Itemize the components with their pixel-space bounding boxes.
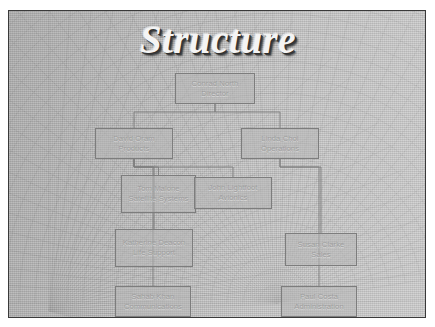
- org-node-role: Products: [119, 144, 150, 154]
- org-node-role: Administration: [294, 302, 344, 312]
- org-node-director[interactable]: Conrad NorthDirector: [175, 73, 255, 104]
- org-node-name: John Lightfoot: [208, 183, 257, 193]
- org-node-life-support[interactable]: Katherine DeaconLife Support: [115, 229, 193, 267]
- org-node-role: Operations: [261, 144, 299, 154]
- org-node-name: Linda Choi: [261, 134, 298, 144]
- org-node-name: Conrad North: [192, 79, 239, 89]
- org-node-name: Susan Clarke: [298, 240, 345, 250]
- org-node-role: Life Support: [133, 248, 175, 258]
- org-chart-connectors: [9, 11, 426, 318]
- org-node-operations[interactable]: Linda ChoiOperations: [241, 128, 319, 159]
- org-node-avionics[interactable]: John LightfootAvionics: [194, 177, 272, 209]
- org-node-administration[interactable]: Paul CostaAdministration: [281, 286, 357, 317]
- org-node-role: Director: [201, 89, 228, 99]
- slide-canvas: Structure Conrad NorthDirectorDavid Oram…: [8, 10, 426, 318]
- org-node-name: Sahab Khan: [132, 292, 175, 302]
- org-chart: Conrad NorthDirectorDavid OramProductsLi…: [9, 11, 425, 317]
- org-node-role: Satellite Systems: [129, 194, 189, 204]
- org-node-name: Paul Costa: [300, 292, 338, 302]
- org-node-products[interactable]: David OramProducts: [95, 128, 173, 159]
- org-node-satellite[interactable]: Tom MaloneSatellite Systems: [121, 175, 196, 213]
- org-node-sales[interactable]: Susan ClarkeSales: [285, 233, 357, 266]
- org-node-name: Katherine Deacon: [123, 238, 185, 248]
- org-node-communications[interactable]: Sahab KhanCommunications: [115, 286, 191, 317]
- org-node-name: Tom Malone: [137, 184, 179, 194]
- org-node-name: David Oram: [113, 134, 155, 144]
- org-node-role: Communications: [124, 302, 182, 312]
- org-node-role: Avionics: [219, 193, 248, 203]
- org-node-role: Sales: [311, 250, 331, 260]
